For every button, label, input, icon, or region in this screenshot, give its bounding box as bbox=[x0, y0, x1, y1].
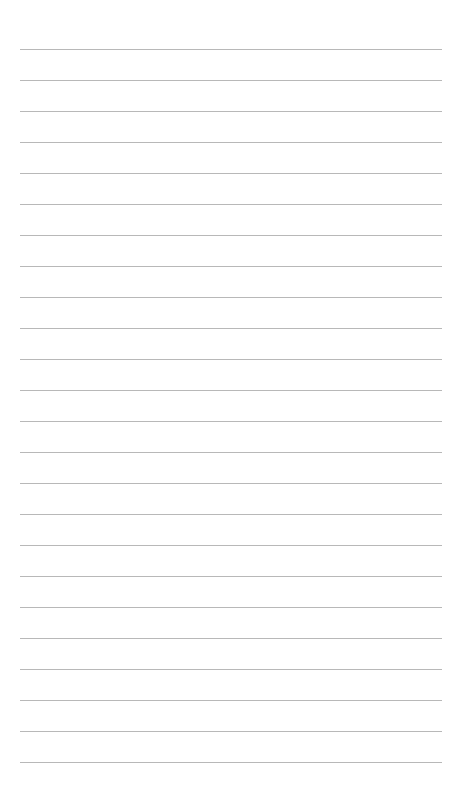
ruled-line bbox=[20, 328, 442, 329]
ruled-line bbox=[20, 142, 442, 143]
ruled-line bbox=[20, 111, 442, 112]
ruled-line bbox=[20, 669, 442, 670]
ruled-line bbox=[20, 483, 442, 484]
ruled-line bbox=[20, 514, 442, 515]
ruled-line bbox=[20, 638, 442, 639]
ruled-line bbox=[20, 390, 442, 391]
ruled-line bbox=[20, 421, 442, 422]
ruled-line bbox=[20, 731, 442, 732]
ruled-line bbox=[20, 173, 442, 174]
ruled-line bbox=[20, 266, 442, 267]
ruled-line bbox=[20, 49, 442, 50]
ruled-line bbox=[20, 452, 442, 453]
ruled-line bbox=[20, 576, 442, 577]
ruled-line bbox=[20, 700, 442, 701]
ruled-line bbox=[20, 297, 442, 298]
ruled-line bbox=[20, 80, 442, 81]
ruled-line bbox=[20, 607, 442, 608]
ruled-line bbox=[20, 545, 442, 546]
ruled-line bbox=[20, 235, 442, 236]
ruled-line bbox=[20, 204, 442, 205]
ruled-line bbox=[20, 762, 442, 763]
ruled-line bbox=[20, 359, 442, 360]
